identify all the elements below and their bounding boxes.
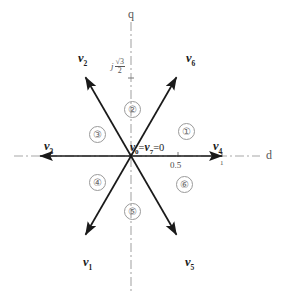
- space-vector-diagram: q d v2 v6 v3 v4 v1 v5 v0=v7=0 0.5 1 j √3…: [0, 0, 286, 301]
- vector-label-v3: v3: [44, 140, 53, 155]
- tick-label-half: 0.5: [170, 161, 181, 170]
- vector-label-v3-subscript: 3: [50, 147, 54, 156]
- vector-v2-arrow: [86, 77, 132, 156]
- sector-label-1: ①: [178, 123, 195, 140]
- sector-label-4: ④: [89, 174, 106, 191]
- d-axis-label: d: [266, 149, 272, 161]
- vector-label-v2: v2: [78, 52, 87, 67]
- vector-label-v4: v4: [213, 140, 222, 155]
- sector-label-5: ⑤: [124, 203, 141, 220]
- sector-label-3: ③: [89, 126, 106, 143]
- zero-vector-value: 0: [159, 142, 164, 153]
- vector-label-v1-subscript: 1: [89, 263, 93, 272]
- tick-label-j-sqrt3-over-2: j √3 2: [111, 58, 125, 74]
- vector-label-v5: v5: [185, 256, 194, 271]
- vector-label-v6-subscript: 6: [192, 59, 196, 68]
- tick-label-one: 1: [220, 160, 224, 167]
- zero-vector-label: v0=v7=0: [130, 142, 164, 156]
- q-axis-label: q: [128, 8, 134, 20]
- imaginary-unit-j: j: [111, 62, 114, 71]
- vector-v1-arrow: [86, 156, 132, 235]
- fraction-sqrt3-over-2: √3 2: [115, 58, 125, 74]
- sector-label-6: ⑥: [176, 176, 193, 193]
- vector-label-v6: v6: [186, 52, 195, 67]
- vector-label-v2-subscript: 2: [84, 59, 88, 68]
- vector-label-v5-subscript: 5: [191, 263, 195, 272]
- vector-label-v4-subscript: 4: [219, 147, 223, 156]
- vector-label-v1: v1: [83, 256, 92, 271]
- fraction-denominator: 2: [118, 67, 122, 75]
- sector-label-2: ②: [124, 101, 141, 118]
